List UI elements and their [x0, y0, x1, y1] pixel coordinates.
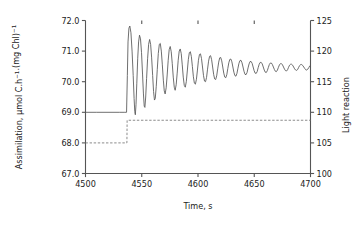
y-left-tick-label: 69.0 — [61, 107, 79, 117]
y-right-tick-label: 120 — [317, 46, 332, 56]
x-tick-label: 4650 — [244, 179, 265, 189]
plot-frame — [86, 21, 311, 174]
x-tick-label: 4600 — [188, 179, 209, 189]
y-left-tick-label: 68.0 — [61, 138, 79, 148]
assimilation-light-reaction-chart: 4500455046004650470067.068.069.070.071.0… — [0, 0, 362, 227]
x-tick-label: 4700 — [300, 179, 321, 189]
svg-text:Assimilation, μmol C.h−1.(mg C: Assimilation, μmol C.h−1.(mg Chl)−1 — [11, 24, 24, 169]
chart-figure: 4500455046004650470067.068.069.070.071.0… — [0, 0, 362, 227]
y-left-tick-label: 71.0 — [61, 46, 79, 56]
y-right-tick-label: 100 — [317, 169, 332, 179]
assimilation-line — [86, 26, 311, 115]
y-left-tick-label: 67.0 — [61, 169, 79, 179]
x-axis-title: Time, s — [182, 201, 212, 211]
x-tick-label: 4550 — [131, 179, 152, 189]
y-right-tick-label: 110 — [317, 107, 332, 117]
light-reaction-line — [86, 120, 311, 143]
y-left-tick-label: 70.0 — [61, 77, 79, 87]
y-right-tick-label: 105 — [317, 138, 332, 148]
y-right-tick-label: 115 — [317, 77, 332, 87]
y-axis-right-title: Light reaction — [341, 77, 351, 133]
x-tick-label: 4500 — [75, 179, 96, 189]
y-right-tick-label: 125 — [317, 16, 332, 26]
y-axis-left-title: Assimilation, μmol C.h−1.(mg Chl)−1 — [11, 24, 24, 169]
y-left-tick-label: 72.0 — [61, 16, 79, 26]
